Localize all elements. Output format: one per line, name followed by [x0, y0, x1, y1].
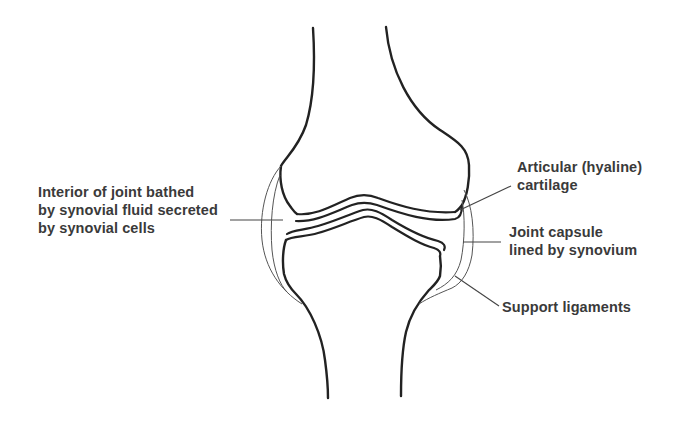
label-support-ligaments: Support ligaments: [502, 298, 631, 316]
label-interior-line-1: Interior of joint bathed: [38, 183, 218, 201]
label-cartilage-line-1: Articular (hyaline): [517, 158, 642, 176]
femur-left-outline: [280, 28, 314, 214]
label-interior-line-2: by synovial fluid secreted: [38, 201, 218, 219]
label-capsule-line-2: lined by synovium: [509, 241, 637, 259]
tibia-plateau-surface: [286, 216, 440, 256]
joint-capsule: [261, 166, 473, 304]
label-capsule-line-1: Joint capsule: [509, 223, 637, 241]
femur-right-outline: [386, 27, 469, 212]
tibia-right-outline: [401, 256, 441, 396]
tibia: [283, 209, 445, 398]
label-ligaments-line-1: Support ligaments: [502, 298, 631, 316]
tibia-left-outline: [283, 240, 328, 398]
label-joint-capsule: Joint capsule lined by synovium: [509, 223, 637, 259]
label-interior-of-joint: Interior of joint bathed by synovial flu…: [38, 183, 218, 237]
label-articular-cartilage: Articular (hyaline) cartilage: [517, 158, 642, 194]
leader-ligaments: [455, 276, 499, 306]
label-interior-line-3: by synovial cells: [38, 219, 218, 237]
label-cartilage-line-2: cartilage: [517, 176, 642, 194]
femur: [280, 27, 469, 221]
